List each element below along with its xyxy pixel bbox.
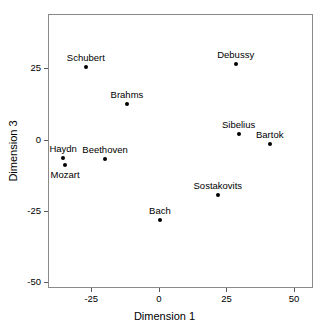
data-point-label: Bach [149,206,171,216]
data-point-label: Sostakovits [194,181,243,191]
x-tick-label: 0 [156,294,161,304]
data-point-label: Haydn [49,144,76,154]
y-tick-label: 0 [36,135,41,145]
scatter-plot-figure: 250-25-50-2502550 SchubertBrahmsHaydnMoz… [0,0,329,331]
data-point [158,218,162,222]
data-point-label: Debussy [217,50,254,60]
data-point [125,102,129,106]
data-point [61,156,65,160]
data-point-layer: SchubertBrahmsHaydnMozartBeethovenBachDe… [48,14,313,288]
y-tick-label: 25 [30,63,41,73]
data-point-label: Bartok [256,130,283,140]
data-point-label: Sibelius [222,120,255,130]
x-tick-mark [294,288,295,292]
x-axis-label: Dimension 1 [0,310,329,322]
y-tick-label: -50 [27,277,41,287]
data-point [268,142,272,146]
x-tick-mark [91,288,92,292]
y-tick-label: -25 [27,206,41,216]
x-tick-mark [226,288,227,292]
data-point-label: Brahms [111,90,144,100]
x-tick-label: -25 [84,294,98,304]
data-point [63,163,67,167]
data-point-label: Schubert [67,53,105,63]
data-point [84,65,88,69]
data-point [216,193,220,197]
y-axis-label: Dimension 3 [7,81,19,221]
data-point [103,157,107,161]
data-point [234,62,238,66]
data-point-label: Beethoven [82,145,127,155]
x-tick-label: 50 [289,294,300,304]
x-tick-label: 25 [221,294,232,304]
data-point [237,132,241,136]
data-point-label: Mozart [51,170,80,180]
x-tick-mark [159,288,160,292]
